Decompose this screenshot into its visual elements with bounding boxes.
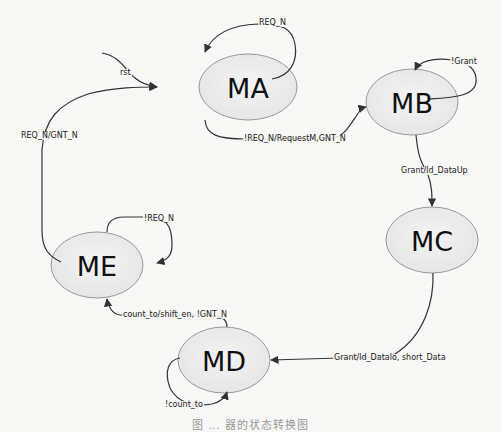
edge-label-md-to-me: count_to/shift_en, !GNT_N xyxy=(122,311,228,319)
edge-label-me-to-ma: REQ_N/GNT_N xyxy=(20,132,79,140)
edge-label-mc-to-md: Grant/ld_Datalo, short_Data xyxy=(333,354,447,362)
state-diagram-svg xyxy=(0,0,501,432)
edge-label-md-self: !count_to xyxy=(164,401,204,409)
edge-mc-to-md xyxy=(271,273,433,360)
diagram-canvas: MA MB MC MD ME rst REQ_N !REQ_N/RequestM… xyxy=(0,0,501,432)
edge-label-me-self: !REQ_N xyxy=(143,215,175,223)
state-ma-label: MA xyxy=(227,75,269,102)
state-mb-label: MB xyxy=(391,90,433,117)
edge-label-rst: rst xyxy=(119,69,132,77)
edge-label-mb-to-mc: Grant/ld_DataUp xyxy=(400,167,469,175)
figure-caption: 图 … 器的状态转换图 xyxy=(0,416,501,432)
state-mc-label: MC xyxy=(411,228,453,255)
state-me-label: ME xyxy=(77,253,117,280)
edge-label-ma-to-mb: !REQ_N/RequestM,GNT_N xyxy=(243,135,347,143)
state-md-label: MD xyxy=(202,348,246,375)
edge-label-mb-self: !Grant xyxy=(450,58,478,66)
edge-label-ma-self: REQ_N xyxy=(258,19,287,27)
